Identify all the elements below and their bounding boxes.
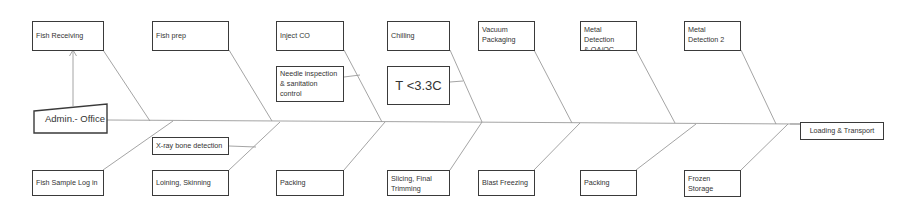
substep-needle-inspection: Needle inspection & sanitation control: [276, 66, 344, 102]
step-vacuum-packaging: Vacuum Packaging: [478, 21, 535, 51]
step-fish-receiving: Fish Receiving: [32, 21, 104, 51]
step-metal-detection-2: Metal Detection 2: [684, 21, 741, 51]
admin-office-label: Admin.- Office: [45, 113, 105, 124]
step-slicing-final-trimming: Slicing, Final Trimming: [387, 170, 450, 196]
step-loining-skinning: Loining, Skinning: [152, 170, 229, 196]
step-loading-transport: Loading & Transport: [800, 122, 884, 140]
step-frozen-storage: Frozen Storage: [684, 170, 741, 197]
fishbone-diagram: Admin.- Office Fish Receiving Fish prep …: [0, 0, 914, 206]
step-inject-co: Inject CO: [276, 21, 344, 51]
step-fish-prep: Fish prep: [152, 21, 229, 51]
spine-line: [107, 120, 800, 124]
substep-xray-bone-detection: X-ray bone detection: [152, 137, 229, 155]
step-packing-2: Packing: [580, 170, 637, 196]
step-fish-sample-log-in: Fish Sample Log in: [32, 170, 104, 196]
diagram-connectors: [0, 0, 914, 206]
step-chilling: Chilling: [387, 21, 450, 51]
step-metal-detection-qaqc: Metal Detection & QA/QC: [580, 21, 637, 51]
substep-temperature: T <3.3C: [387, 66, 450, 105]
step-packing-1: Packing: [276, 170, 344, 196]
step-blast-freezing: Blast Freezing: [478, 170, 535, 196]
